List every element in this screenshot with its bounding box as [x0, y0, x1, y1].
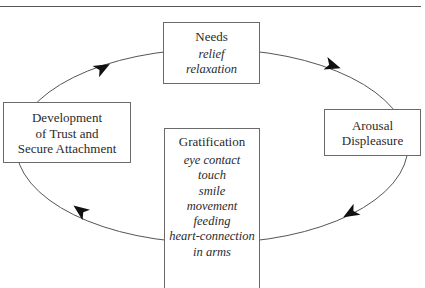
- node-arousal-title-line: Displeasure: [325, 133, 420, 148]
- node-trust-title-line: Secure Attachment: [4, 141, 130, 157]
- node-gratification-item: eye contact: [165, 153, 259, 168]
- arrow-arousal-to-gratification-icon: [340, 204, 360, 224]
- node-gratification-item: touch: [165, 168, 259, 183]
- node-trust: Development of Trust and Secure Attachme…: [3, 102, 131, 163]
- node-needs-item: relief: [164, 47, 259, 62]
- node-needs-title: Needs: [164, 29, 259, 44]
- node-arousal-title-line: Arousal: [325, 118, 420, 133]
- arrow-trust-to-needs-icon: [93, 58, 113, 77]
- node-gratification-item: feeding: [165, 214, 259, 229]
- node-needs-item: relaxation: [164, 62, 259, 77]
- node-needs: Needs relief relaxation: [163, 22, 260, 84]
- node-trust-title-line: Development: [4, 110, 130, 126]
- node-gratification: Gratification eye contact touch smile mo…: [164, 128, 260, 288]
- node-gratification-item: movement: [165, 199, 259, 214]
- node-gratification-item: in arms: [165, 245, 259, 260]
- node-trust-title-line: of Trust and: [4, 126, 130, 142]
- node-gratification-item: heart-connection: [165, 229, 259, 244]
- node-arousal: Arousal Displeasure: [324, 109, 421, 156]
- node-gratification-title: Gratification: [165, 134, 259, 149]
- arrow-needs-to-arousal-icon: [324, 57, 343, 74]
- node-gratification-item: smile: [165, 184, 259, 199]
